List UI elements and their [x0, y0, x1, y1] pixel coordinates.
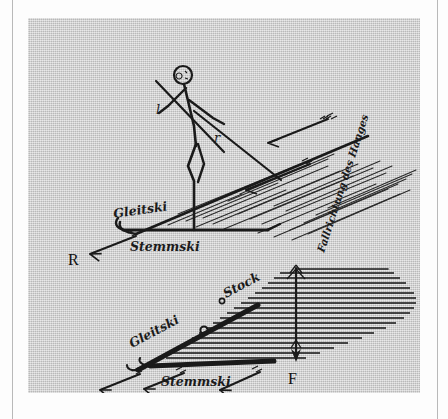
label-stemmski-lower: Stemmski [161, 374, 231, 389]
label-gleitski-lower: Gleitski [126, 312, 181, 351]
skier-leg-rear [188, 144, 196, 230]
upper-side-view: l r Gleitski Stemmski [68, 66, 416, 268]
figure-panel: l r Gleitski Stemmski [28, 18, 420, 393]
label-fallrichtung: Fallrichtung des Hanges [314, 113, 370, 255]
slope-arrow-upper-1 [268, 113, 337, 147]
glide-arrow-lower-1 [99, 368, 142, 393]
ski-pole-right [194, 111, 281, 180]
skier-face-detail [176, 71, 188, 79]
label-pole-right: r [214, 130, 221, 145]
slope-hatching-lower [166, 273, 416, 358]
skier-leg-front [198, 144, 204, 182]
stemmski-tail-upper [268, 224, 280, 230]
stemmski-bar-lower [150, 361, 274, 366]
label-stock-lower: Stock [220, 269, 262, 301]
label-stemmski-upper: Stemmski [130, 239, 200, 254]
stock-point-marker [219, 298, 224, 303]
label-vector-F: F [288, 370, 297, 387]
scanned-page: l r Gleitski Stemmski [0, 0, 448, 419]
page-edge-rule-right [437, 0, 438, 419]
label-pole-left: l [156, 102, 160, 117]
gleitski-tip-upper [120, 222, 136, 234]
lower-plan-view: Gleitski Stock Stemmski F [99, 265, 416, 393]
label-gleitski-upper: Gleitski [112, 199, 168, 221]
stick-figure-skier [156, 66, 281, 230]
ski-technique-diagram: l r Gleitski Stemmski [28, 18, 420, 393]
page-edge-rule-left [12, 0, 13, 419]
label-vector-R: R [68, 251, 79, 268]
